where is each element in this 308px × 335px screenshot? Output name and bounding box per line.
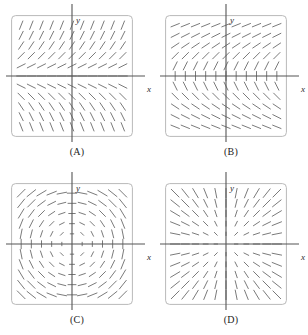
panel-d: y x (D) — [154, 168, 308, 335]
slope-field-figure: y x (A) y x (B) y x (C) y x (D) — [0, 0, 308, 335]
slope-field-svg-a — [11, 15, 133, 137]
axis-label-x-b: x — [301, 85, 305, 94]
panel-b: y x (B) — [154, 0, 308, 167]
slope-field-svg-c — [11, 183, 133, 305]
panel-a: y x (A) — [0, 0, 154, 167]
plot-area-b: y x — [165, 15, 287, 137]
plot-area-c: y x — [11, 183, 133, 305]
axis-label-x-a: x — [147, 85, 151, 94]
panel-c: y x (C) — [0, 168, 154, 335]
axis-label-x-c: x — [147, 253, 151, 262]
panel-caption-d: (D) — [154, 314, 308, 325]
plot-area-d: y x — [165, 183, 287, 305]
plot-area-a: y x — [11, 15, 133, 137]
axis-label-y-d: y — [230, 184, 234, 193]
panel-caption-c: (C) — [0, 314, 154, 325]
axis-label-x-d: x — [301, 253, 305, 262]
slope-field-svg-b — [165, 15, 287, 137]
slope-field-svg-d — [165, 183, 287, 305]
panel-caption-b: (B) — [154, 146, 308, 157]
panel-caption-a: (A) — [0, 146, 154, 157]
axis-label-y-c: y — [76, 184, 80, 193]
axis-label-y-b: y — [230, 16, 234, 25]
axis-label-y-a: y — [76, 16, 80, 25]
